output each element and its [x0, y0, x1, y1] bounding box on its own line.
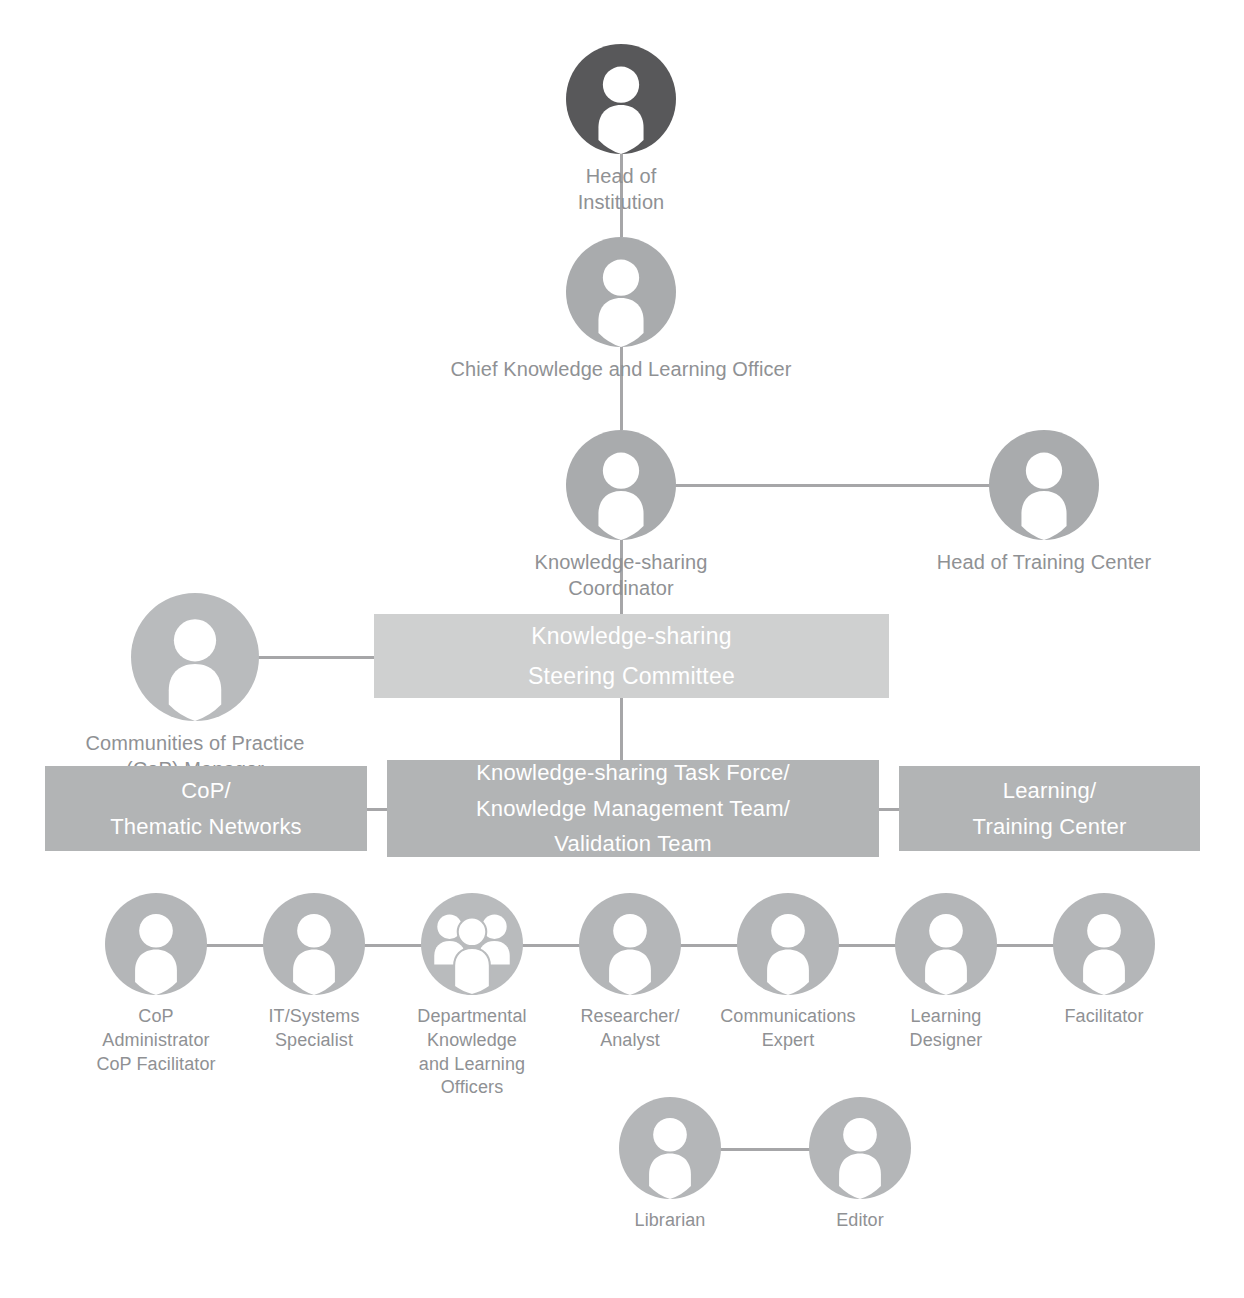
person-icon — [737, 893, 839, 999]
node-role-3[interactable]: Researcher/ Analyst — [550, 893, 710, 1053]
node-label: Departmental Knowledge and Learning Offi… — [417, 1005, 526, 1100]
person-icon — [989, 430, 1099, 544]
connector-coptheme-to-taskforce — [366, 808, 388, 811]
node-label: Knowledge-sharing Coordinator — [485, 550, 757, 601]
node-label: CoP Administrator CoP Facilitator — [96, 1005, 215, 1076]
node-librarian[interactable]: Librarian — [619, 1097, 721, 1233]
node-label: IT/Systems Specialist — [268, 1005, 359, 1053]
node-head-of-institution[interactable]: Head of Institution — [557, 44, 685, 215]
person-icon — [1053, 893, 1155, 999]
node-role-4[interactable]: Communications Expert — [708, 893, 868, 1053]
node-label: Learning Designer — [910, 1005, 983, 1053]
node-label: Librarian — [635, 1209, 706, 1233]
box-knowledge-sharing-steering-committee[interactable]: Knowledge-sharing Steering Committee — [374, 614, 889, 698]
box-label: Knowledge-sharing Task Force/ Knowledge … — [476, 755, 790, 862]
person-icon — [619, 1097, 721, 1203]
person-icon — [566, 237, 676, 351]
node-label: Editor — [836, 1209, 884, 1233]
node-label: Researcher/ Analyst — [580, 1005, 679, 1053]
node-knowledge-sharing-coordinator[interactable]: Knowledge-sharing Coordinator — [485, 430, 757, 601]
node-chief-knowledge-and-learning-officer[interactable]: Chief Knowledge and Learning Officer — [450, 237, 792, 383]
org-chart: Head of Institution Chief Knowledge and … — [0, 0, 1244, 1298]
node-role-0[interactable]: CoP Administrator CoP Facilitator — [76, 893, 236, 1076]
people-group-icon — [421, 893, 523, 999]
node-role-6[interactable]: Facilitator — [1024, 893, 1184, 1029]
box-knowledge-sharing-task-force[interactable]: Knowledge-sharing Task Force/ Knowledge … — [387, 760, 879, 857]
person-icon — [263, 893, 365, 999]
node-role-1[interactable]: IT/Systems Specialist — [234, 893, 394, 1053]
person-icon — [105, 893, 207, 999]
box-label: Learning/ Training Center — [973, 773, 1127, 844]
node-label: Facilitator — [1064, 1005, 1143, 1029]
connector-taskforce-to-learning — [878, 808, 900, 811]
node-head-of-training-center[interactable]: Head of Training Center — [930, 430, 1158, 576]
person-icon — [809, 1097, 911, 1203]
person-icon — [566, 430, 676, 544]
box-label: Knowledge-sharing Steering Committee — [528, 616, 735, 697]
box-cop-thematic-networks[interactable]: CoP/ Thematic Networks — [45, 766, 367, 851]
person-icon — [579, 893, 681, 999]
box-learning-training-center[interactable]: Learning/ Training Center — [899, 766, 1200, 851]
person-icon — [566, 44, 676, 158]
node-label: Communications Expert — [720, 1005, 855, 1053]
node-role-5[interactable]: Learning Designer — [866, 893, 1026, 1053]
person-icon — [895, 893, 997, 999]
connector-librarian-editor — [712, 1148, 818, 1151]
node-label: Head of Institution — [557, 164, 685, 215]
box-label: CoP/ Thematic Networks — [110, 773, 302, 844]
node-label: Head of Training Center — [937, 550, 1152, 576]
node-label: Chief Knowledge and Learning Officer — [450, 357, 791, 383]
node-role-2[interactable]: Departmental Knowledge and Learning Offi… — [392, 893, 552, 1100]
node-editor[interactable]: Editor — [809, 1097, 911, 1233]
person-icon — [131, 593, 259, 725]
node-cop-manager[interactable]: Communities of Practice (CoP) Manager — [30, 593, 360, 782]
